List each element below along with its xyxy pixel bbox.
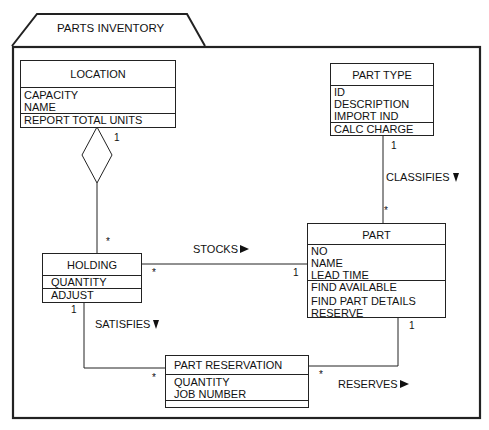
multiplicity-part-reserves: 1: [409, 321, 415, 331]
multiplicity-location: 1: [114, 133, 120, 143]
attribute: ID: [334, 86, 433, 98]
attribute: CAPACITY: [24, 89, 175, 101]
multiplicity-reservation-satisfies: *: [152, 373, 156, 383]
class-name: PART RESERVATION: [166, 356, 308, 375]
arrow-right-icon: [240, 245, 249, 253]
stocks-label: STOCKS: [193, 243, 238, 255]
multiplicity-reservation-reserves: *: [319, 370, 323, 380]
reserves-line: [308, 317, 398, 366]
class-location[interactable]: LOCATION CAPACITY NAME REPORT TOTAL UNIT…: [20, 60, 176, 128]
operation: ADJUST: [51, 289, 141, 301]
arrow-down-icon: [453, 173, 459, 182]
multiplicity-part-type: 1: [391, 141, 397, 151]
package-title: PARTS INVENTORY: [57, 22, 164, 34]
operation: REPORT TOTAL UNITS: [24, 114, 175, 126]
class-part-type[interactable]: PART TYPE ID DESCRIPTION IMPORT IND CALC…: [330, 63, 434, 136]
multiplicity-part-classified: *: [384, 206, 388, 216]
operation: FIND PART DETAILS: [311, 295, 445, 307]
class-name: PART: [308, 224, 445, 245]
relationship-label-reserves: RESERVES: [338, 378, 409, 390]
satisfies-label: SATISFIES: [95, 318, 150, 330]
class-part-reservation[interactable]: PART RESERVATION QUANTITY JOB NUMBER: [165, 355, 309, 408]
class-operations: REPORT TOTAL UNITS: [21, 114, 175, 127]
class-name: HOLDING: [43, 254, 141, 276]
class-operations: FIND AVAILABLE FIND PART DETAILS RESERVE: [308, 281, 445, 317]
class-attributes: ID DESCRIPTION IMPORT IND: [331, 86, 433, 123]
class-name: PART TYPE: [331, 64, 433, 86]
operation: FIND AVAILABLE: [311, 281, 445, 293]
attribute: DESCRIPTION: [334, 98, 433, 110]
class-part[interactable]: PART NO NAME LEAD TIME FIND AVAILABLE FI…: [307, 223, 446, 318]
multiplicity-holding-stocks: *: [152, 268, 156, 278]
arrow-right-icon: [400, 380, 409, 388]
class-diagram-canvas: PARTS INVENTORY LOCATION CAPACITY NAME R…: [0, 0, 489, 430]
class-operations: ADJUST: [43, 289, 141, 302]
class-attributes: QUANTITY: [43, 276, 141, 289]
attribute: JOB NUMBER: [174, 388, 308, 400]
aggregation-diamond-icon: [82, 127, 112, 183]
attribute: IMPORT IND: [334, 110, 433, 122]
attribute: NO: [311, 245, 445, 257]
relationship-label-stocks: STOCKS: [193, 243, 249, 255]
classifies-label: CLASSIFIES: [386, 171, 450, 183]
class-operations: CALC CHARGE: [331, 123, 433, 135]
operation: CALC CHARGE: [334, 123, 433, 135]
class-name: LOCATION: [21, 61, 175, 88]
reserves-label: RESERVES: [338, 378, 398, 390]
attribute: QUANTITY: [174, 376, 308, 388]
multiplicity-holding-agg: *: [106, 237, 110, 247]
arrow-down-icon: [153, 320, 159, 329]
attribute: QUANTITY: [51, 276, 141, 288]
operation: RESERVE: [311, 307, 445, 319]
attribute: LEAD TIME: [311, 269, 445, 281]
class-attributes: CAPACITY NAME: [21, 88, 175, 114]
class-operations: [166, 401, 308, 407]
relationship-label-classifies: CLASSIFIES: [386, 171, 459, 183]
attribute: NAME: [311, 257, 445, 269]
relationship-label-satisfies: SATISFIES: [95, 318, 159, 330]
attribute: NAME: [24, 101, 175, 113]
class-attributes: QUANTITY JOB NUMBER: [166, 375, 308, 401]
class-attributes: NO NAME LEAD TIME: [308, 245, 445, 281]
multiplicity-holding-satisfies: 1: [71, 305, 77, 315]
class-holding[interactable]: HOLDING QUANTITY ADJUST: [42, 253, 142, 303]
multiplicity-part-stocks: 1: [293, 268, 299, 278]
satisfies-line: [84, 302, 165, 368]
